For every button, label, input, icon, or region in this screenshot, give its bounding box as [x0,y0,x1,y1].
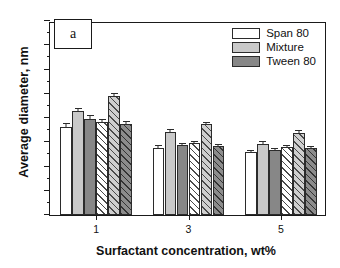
legend-label: Span 80 [266,28,309,39]
error-bar-cap [271,148,278,149]
legend: Span 80MixtureTween 80 [229,26,319,69]
error-bar [72,109,83,112]
error-bar [257,142,268,144]
error-bar-stem [310,147,311,148]
legend-swatch-tween [232,56,260,67]
error-bar-stem [262,142,263,144]
legend-swatch-span [232,28,260,39]
y-tick-major [44,69,50,70]
bar [201,124,212,215]
error-bar [84,116,95,118]
x-tick-label: 5 [269,223,293,235]
legend-item-tween: Tween 80 [232,56,316,67]
error-bar-cap [99,119,106,120]
error-bar-cap [203,122,210,123]
plot-area: 0100200300400500600700800 135 a Span 80M… [49,22,326,216]
error-bar-cap [111,93,118,94]
bar [293,133,304,215]
error-bar [293,131,304,133]
bar [305,148,316,215]
y-tick-minor [47,153,51,154]
y-tick-major [44,214,50,215]
error-bar-stem [286,146,287,147]
x-tick [96,215,97,220]
error-bar-stem [78,109,79,112]
error-bar-cap [259,141,266,142]
error-bar [245,151,256,152]
y-tick-major [44,166,50,167]
error-bar [165,130,176,132]
error-bar [269,149,280,150]
y-tick-minor [47,105,51,106]
bar [72,111,83,215]
error-bar-cap [215,144,222,145]
y-tick-major [44,190,50,191]
bar [245,152,256,215]
error-bar-cap [123,121,130,122]
legend-item-span: Span 80 [232,28,316,39]
y-tick-major [44,117,50,118]
error-bar-stem [298,131,299,133]
error-bar-cap [191,141,198,142]
y-tick-minor [47,32,51,33]
error-bar [153,146,164,147]
x-tick-label: 1 [84,223,108,235]
bar [120,124,131,215]
error-bar-stem [194,142,195,143]
error-bar [213,145,224,146]
error-bar-cap [283,145,290,146]
error-bar-cap [295,130,302,131]
bar [96,122,107,215]
error-bar-stem [126,122,127,124]
y-tick-minor [47,56,51,57]
bar [177,145,188,215]
error-bar-stem [114,94,115,96]
y-tick-major [44,44,50,45]
bar [84,119,95,216]
panel-label: a [54,19,92,49]
error-bar [305,147,316,148]
error-bar [177,144,188,145]
y-tick-major [44,141,50,142]
error-bar [189,142,200,143]
x-tick [189,215,190,220]
error-bar-stem [182,144,183,145]
bar [60,127,71,215]
legend-label: Tween 80 [266,56,316,67]
error-bar-stem [90,116,91,118]
bar [108,96,119,215]
bar [257,144,268,215]
error-bar-stem [206,123,207,125]
error-bar-cap [63,123,70,124]
error-bar-stem [218,145,219,146]
error-bar-stem [170,130,171,132]
y-tick-minor [47,81,51,82]
error-bar [120,122,131,124]
error-bar [96,120,107,122]
bar [165,132,176,215]
legend-label: Mixture [266,42,304,53]
x-axis-title: Surfactant concentration, wt% [40,244,332,258]
bar [269,150,280,215]
error-bar-cap [87,115,94,116]
figure: Average diameter, nm Surfactant concentr… [0,0,340,268]
x-tick [281,215,282,220]
x-tick-label: 3 [177,223,201,235]
bar [281,147,292,215]
error-bar-cap [167,129,174,130]
error-bar [108,94,119,96]
y-tick-major [44,20,50,21]
error-bar-stem [274,149,275,150]
legend-item-mixture: Mixture [232,42,316,53]
error-bar [60,124,71,127]
error-bar [281,146,292,147]
error-bar-cap [307,146,314,147]
y-tick-major [44,93,50,94]
bar [189,143,200,215]
y-axis-title: Average diameter, nm [17,22,31,202]
error-bar-cap [179,143,186,144]
legend-swatch-mixture [232,42,260,53]
error-bar-stem [102,120,103,122]
error-bar [201,123,212,125]
error-bar-stem [66,124,67,127]
